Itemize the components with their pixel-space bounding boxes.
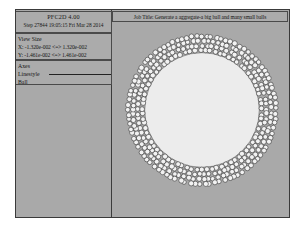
small-ball (237, 55, 242, 60)
small-ball (152, 164, 157, 169)
small-ball (217, 170, 222, 175)
small-ball (219, 37, 224, 42)
small-ball (212, 180, 217, 185)
small-ball (135, 107, 140, 112)
small-ball (131, 103, 136, 108)
small-ball (239, 158, 244, 163)
small-ball (139, 150, 144, 155)
app-title: PFC2D 4.00 (16, 13, 111, 21)
small-ball (185, 165, 190, 170)
small-ball (206, 39, 210, 43)
small-ball (246, 50, 250, 54)
small-ball (210, 167, 215, 172)
pfc2d-visualization-window: PFC2D 4.00 Step 27844 19:05:15 Fri Mar 2… (15, 9, 290, 218)
small-ball (242, 66, 247, 71)
small-ball (139, 65, 144, 70)
legend-axes-label: Axes (18, 63, 30, 69)
small-ball (195, 38, 200, 43)
small-ball (136, 101, 141, 106)
small-ball (269, 85, 274, 90)
small-ball (173, 172, 178, 177)
legend-linestyle-label: Linestyle (18, 71, 40, 77)
small-ball (149, 54, 153, 58)
small-ball (223, 178, 228, 183)
legend-item-ball[interactable]: Ball (18, 78, 111, 86)
small-ball (216, 41, 221, 46)
small-ball (149, 154, 154, 159)
small-ball (141, 136, 146, 141)
small-ball (268, 120, 273, 125)
small-ball (256, 127, 261, 132)
small-ball (259, 72, 264, 77)
small-ball (176, 43, 181, 48)
small-ball (136, 145, 141, 150)
legend-ball-label: Ball (18, 79, 28, 85)
small-ball (132, 136, 137, 141)
small-ball (268, 115, 273, 120)
small-ball (144, 67, 149, 72)
small-ball (139, 88, 144, 93)
small-ball (232, 41, 237, 46)
small-ball (214, 45, 219, 50)
step-timestamp: Step 27844 19:05:15 Fri Mar 28 2014 (16, 21, 111, 29)
big-ball (145, 53, 260, 168)
big-ball-circle (145, 53, 260, 168)
small-ball (266, 139, 271, 144)
small-ball (202, 177, 207, 182)
small-ball (252, 159, 257, 164)
small-ball (211, 39, 216, 44)
small-ball (260, 86, 265, 91)
plot-panel: Job Title: Generate a aggregate-a big ba… (112, 10, 289, 217)
small-ball (131, 117, 136, 122)
small-ball (162, 55, 167, 60)
info-panel: PFC2D 4.00 Step 27844 19:05:15 Fri Mar 2… (16, 10, 112, 217)
small-ball (226, 55, 231, 60)
small-ball (162, 50, 167, 55)
small-ball (262, 120, 267, 125)
small-ball (197, 172, 202, 177)
small-ball (246, 159, 251, 164)
small-ball (197, 176, 202, 181)
job-title-text: Job Title: Generate a aggregate-a big ba… (134, 14, 266, 20)
small-ball (261, 139, 266, 144)
small-ball (255, 139, 260, 144)
small-ball (181, 47, 186, 52)
small-ball (125, 107, 130, 112)
small-ball (262, 148, 267, 153)
small-ball (248, 65, 253, 70)
small-ball (239, 164, 244, 169)
small-ball (244, 148, 249, 153)
small-ball (224, 48, 229, 53)
small-ball (256, 91, 261, 96)
small-ball (259, 101, 264, 106)
small-ball (176, 47, 181, 52)
small-ball (273, 100, 278, 105)
small-ball (262, 91, 267, 96)
small-ball (132, 99, 137, 104)
small-ball (268, 100, 273, 105)
view-size-heading: View Size (18, 35, 111, 43)
small-ball (126, 102, 131, 107)
small-ball (153, 50, 158, 55)
small-ball (259, 144, 264, 149)
small-ball (162, 154, 167, 159)
small-ball (228, 39, 233, 44)
small-ball (157, 167, 162, 172)
small-ball (194, 44, 199, 49)
small-ball (179, 37, 184, 42)
small-ball (127, 97, 132, 102)
small-ball (171, 45, 176, 50)
legend-item-axes[interactable]: Axes (18, 62, 111, 70)
legend-item-linestyle[interactable]: Linestyle (18, 70, 111, 78)
small-ball (232, 52, 237, 57)
small-ball (224, 43, 229, 48)
small-ball (263, 135, 268, 140)
small-ball (141, 117, 146, 122)
small-ball (195, 167, 199, 171)
view-size-x-range: X: -1.320e-002 <=> 1.320e-002 (18, 43, 111, 51)
small-ball (186, 175, 191, 180)
small-ball (176, 162, 181, 167)
small-ball (140, 107, 145, 112)
small-ball (272, 120, 277, 125)
view-size-box: View Size X: -1.320e-002 <=> 1.320e-002 … (15, 33, 112, 60)
